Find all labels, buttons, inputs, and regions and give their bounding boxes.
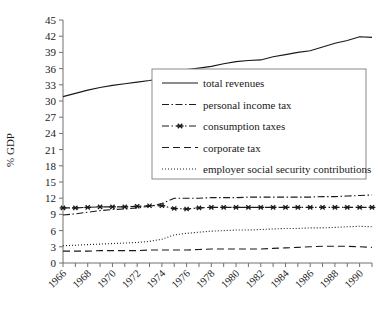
chart-figure: 0369121518212427303336394245 19661968197…	[0, 0, 378, 311]
y-tick-label: 9	[51, 208, 57, 220]
legend-label-2: consumption taxes	[203, 120, 285, 132]
line-chart: 0369121518212427303336394245 19661968197…	[0, 0, 378, 311]
y-tick-label: 39	[45, 46, 57, 58]
y-tick-label: 15	[45, 176, 57, 188]
y-axis-title-text: % GDP	[4, 133, 16, 167]
y-tick-label: 33	[45, 79, 57, 91]
y-tick-label: 0	[51, 257, 57, 269]
y-tick-label: 42	[45, 30, 56, 42]
chart-legend: total revenuespersonal income taxconsump…	[152, 69, 371, 179]
y-tick-label: 45	[45, 14, 57, 26]
legend-label-1: personal income tax	[203, 99, 292, 111]
y-tick-label: 24	[45, 127, 57, 139]
y-tick-label: 12	[45, 192, 56, 204]
legend-label-0: total revenues	[203, 77, 264, 89]
y-tick-label: 3	[51, 241, 57, 253]
legend-label-4: employer social security contributions	[203, 163, 371, 175]
y-tick-label: 6	[51, 225, 57, 237]
y-tick-label: 27	[45, 111, 57, 123]
y-tick-label: 36	[45, 63, 57, 75]
y-tick-label: 18	[45, 160, 57, 172]
y-axis-title: % GDP	[4, 133, 16, 167]
y-tick-label: 30	[45, 95, 57, 107]
y-tick-label: 21	[45, 144, 56, 156]
legend-label-3: corporate tax	[203, 142, 261, 154]
